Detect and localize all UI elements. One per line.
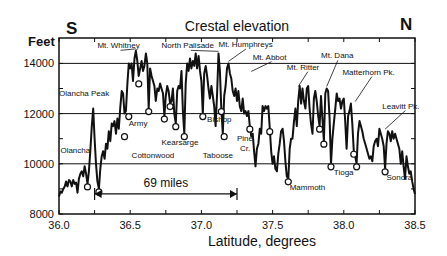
pass-label: Cottonwood bbox=[132, 151, 175, 160]
pass-marker-circle bbox=[173, 124, 179, 130]
pass-marker-circle bbox=[167, 104, 173, 110]
pass-marker-circle bbox=[161, 116, 167, 122]
pass-marker-circle bbox=[321, 141, 327, 147]
pass-marker-circle bbox=[221, 134, 227, 140]
pass-marker-circle bbox=[200, 114, 206, 120]
chart-title: Crestal elevation bbox=[185, 18, 289, 34]
pass-marker-circle bbox=[317, 126, 323, 132]
y-tick-label: 12000 bbox=[23, 108, 54, 120]
y-tick-labels: 8000100001200014000 bbox=[23, 57, 54, 220]
peak-label: Mt. Ritter bbox=[287, 63, 320, 72]
scale-bar-label: 69 miles bbox=[143, 176, 188, 190]
leader-line bbox=[355, 77, 372, 102]
pass-label: Sonora bbox=[387, 173, 413, 182]
leader-line bbox=[228, 49, 245, 61]
pass-label: Mammoth bbox=[290, 183, 326, 192]
y-axis-label: Feet bbox=[28, 34, 55, 49]
x-tick-label: 37.5 bbox=[262, 219, 283, 231]
pass-marker-circle bbox=[146, 109, 152, 115]
x-tick-label: 38.5 bbox=[404, 219, 425, 231]
peak-label: Matterhorn Pk. bbox=[342, 68, 394, 77]
leader-line bbox=[298, 72, 308, 87]
scale-bar: 69 miles bbox=[95, 176, 237, 200]
pass-label: Kearsarge bbox=[162, 138, 199, 147]
pass-label: Pine bbox=[237, 134, 254, 143]
y-tick-label: 10000 bbox=[23, 158, 54, 170]
x-tick-label: 36.5 bbox=[119, 219, 140, 231]
corner-label-south: S bbox=[66, 19, 77, 38]
pass-label: Cr. bbox=[240, 144, 250, 153]
pass-marker-circle bbox=[218, 109, 224, 115]
leader-line bbox=[327, 60, 338, 86]
crestal-elevation-chart: Crestal elevation S N Feet Latitude, deg… bbox=[0, 0, 447, 256]
x-tick-label: 37.0 bbox=[191, 219, 212, 231]
pass-marker-circle bbox=[247, 126, 253, 132]
pass-marker-circle bbox=[267, 129, 273, 135]
peak-label: Olancha Peak bbox=[59, 89, 110, 98]
pass-label: Taboose bbox=[203, 151, 234, 160]
pass-label: Bishop bbox=[207, 115, 232, 124]
pass-label: Army bbox=[129, 119, 148, 128]
y-tick-label: 14000 bbox=[23, 57, 54, 69]
peak-label: Leavitt Pk. bbox=[382, 102, 419, 111]
pass-marker-circle bbox=[122, 134, 128, 140]
peak-label: Mt. Dana bbox=[321, 51, 354, 60]
arrow-right-icon bbox=[230, 190, 237, 198]
x-tick-label: 38.0 bbox=[333, 219, 354, 231]
x-tick-label: 36.0 bbox=[48, 219, 69, 231]
peak-label: North Palisade bbox=[162, 41, 215, 50]
pass-marker-circle bbox=[354, 164, 360, 170]
pass-label: Olancha bbox=[60, 146, 90, 155]
pass-marker-circle bbox=[351, 151, 357, 157]
pass-marker-circle bbox=[84, 184, 90, 190]
x-axis-label: Latitude, degrees bbox=[208, 233, 316, 249]
pass-label: Tioga bbox=[334, 168, 354, 177]
gridlines bbox=[59, 63, 415, 163]
corner-label-north: N bbox=[400, 15, 412, 34]
x-tick-labels: 36.036.537.037.538.038.5 bbox=[48, 219, 425, 231]
peak-and-pass-labels: Olancha PeakMt. WhitneyNorth PalisadeMt.… bbox=[59, 40, 420, 192]
leader-line bbox=[191, 50, 219, 51]
peak-label: Mt. Abbot bbox=[253, 53, 288, 62]
peak-label: Mt. Humphreys bbox=[218, 40, 272, 49]
pass-marker-circle bbox=[136, 81, 142, 87]
